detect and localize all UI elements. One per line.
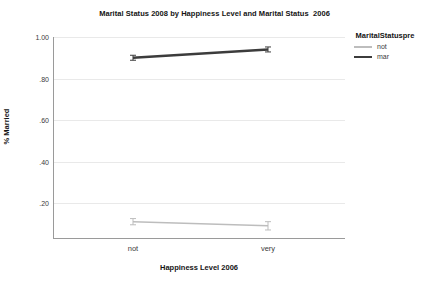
legend-entries: notmar [341,43,429,60]
legend-item-not[interactable]: not [341,43,429,50]
chart-canvas: Marital Status 2008 by Happiness Level a… [0,0,429,286]
series-line [133,222,268,226]
series-mar [130,47,271,60]
legend-line-icon [354,44,372,50]
x-axis-tick-label: very [233,244,303,253]
series-line [133,49,268,57]
legend-item-mar[interactable]: mar [341,53,429,60]
x-axis-tick-label: not [98,244,168,253]
legend-line-icon [354,54,372,60]
legend-item-label: not [377,43,387,50]
legend: MaritalStatuspre notmar [341,31,429,60]
series-not [130,219,271,230]
legend-title: MaritalStatuspre [341,31,429,40]
legend-item-label: mar [377,53,389,60]
